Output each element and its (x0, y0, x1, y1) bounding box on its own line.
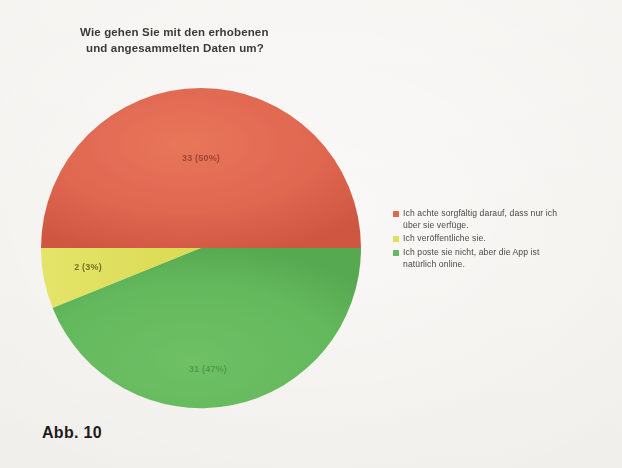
legend-swatch-red-icon (393, 211, 399, 217)
legend-item-2: Ich poste sie nicht, aber die App ist na… (393, 247, 598, 270)
legend-label-0-line-1: Ich achte sorgfältig darauf, dass nur ic… (403, 208, 557, 218)
chart-legend: Ich achte sorgfältig darauf, dass nur ic… (393, 208, 598, 272)
legend-item-0: Ich achte sorgfältig darauf, dass nur ic… (393, 208, 598, 231)
pie-label-red: 33 (50%) (182, 153, 220, 163)
pie-label-yellow: 2 (3%) (74, 262, 102, 272)
figure-caption: Abb. 10 (42, 424, 102, 442)
pie-chart: 33 (50%) 2 (3%) 31 (47%) (40, 88, 362, 410)
legend-item-1: Ich veröffentliche sie. (393, 233, 598, 245)
figure-chart: Wie gehen Sie mit den erhobenen und ange… (0, 0, 622, 468)
legend-label-2: Ich poste sie nicht, aber die App ist na… (403, 247, 540, 270)
legend-label-1: Ich veröffentliche sie. (403, 233, 486, 245)
legend-swatch-yellow-icon (393, 236, 399, 242)
legend-label-2-line-1: Ich poste sie nicht, aber die App ist (403, 247, 540, 257)
legend-label-2-line-2: natürlich online. (403, 259, 465, 269)
pie-chart-svg: 33 (50%) 2 (3%) 31 (47%) (40, 88, 362, 410)
chart-title: Wie gehen Sie mit den erhobenen und ange… (80, 24, 350, 57)
pie-label-green: 31 (47%) (189, 364, 227, 374)
pie-slice-red (41, 88, 361, 248)
chart-title-line-2: und angesammelten Daten um? (80, 40, 350, 56)
legend-label-0: Ich achte sorgfältig darauf, dass nur ic… (403, 208, 557, 231)
legend-swatch-green-icon (393, 250, 399, 256)
chart-title-line-1: Wie gehen Sie mit den erhobenen (80, 26, 269, 38)
legend-label-1-line-1: Ich veröffentliche sie. (403, 233, 486, 243)
legend-label-0-line-2: über sie verfüge. (403, 220, 469, 230)
